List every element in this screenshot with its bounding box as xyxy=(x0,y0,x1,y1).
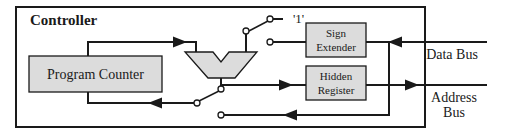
hidden-register-block: Hidden Register xyxy=(306,66,366,100)
address-bus-label-2: Bus xyxy=(443,105,465,120)
switch-contact-constant xyxy=(267,16,273,22)
constant-one-label: '1' xyxy=(293,11,304,26)
sign-extender-block: Sign Extender xyxy=(306,23,366,57)
sign-extender-label-1: Sign xyxy=(326,27,347,39)
data-bus-label: Data Bus xyxy=(426,47,478,62)
pc-to-adder-wire xyxy=(88,42,196,56)
program-counter-block: Program Counter xyxy=(29,56,162,92)
sign-extender-label-2: Extender xyxy=(316,41,356,53)
pc-load-switch-arm xyxy=(199,91,219,101)
controller-title: Controller xyxy=(30,12,98,28)
switch-contact-pc-load xyxy=(194,100,200,106)
adder-symbol xyxy=(185,52,257,78)
switch-contact-adder-output xyxy=(218,86,224,92)
switch-to-pc-wire xyxy=(88,92,195,103)
hidden-register-label-2: Register xyxy=(318,84,355,96)
hidden-register-label-1: Hidden xyxy=(320,70,353,82)
switch-contact-common xyxy=(243,28,249,34)
address-bus-label-1: Address xyxy=(431,90,477,105)
switch-contact-sign-extender xyxy=(267,39,273,45)
controller-diagram: Controller Program Counter Sign Extender… xyxy=(0,0,511,133)
switch-contact-data-bus xyxy=(218,112,224,118)
program-counter-label: Program Counter xyxy=(47,67,144,82)
input-switch-arm xyxy=(247,21,268,32)
